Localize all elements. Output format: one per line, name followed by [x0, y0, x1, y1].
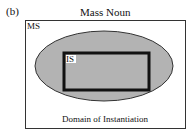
figure-title: Mass Noun	[80, 7, 130, 18]
domain-label: Domain of Instantiation	[62, 115, 148, 124]
is-label: IS	[66, 55, 74, 64]
ms-label: MS	[27, 22, 40, 31]
panel-label: (b)	[6, 6, 19, 17]
diagram-canvas	[0, 0, 194, 132]
